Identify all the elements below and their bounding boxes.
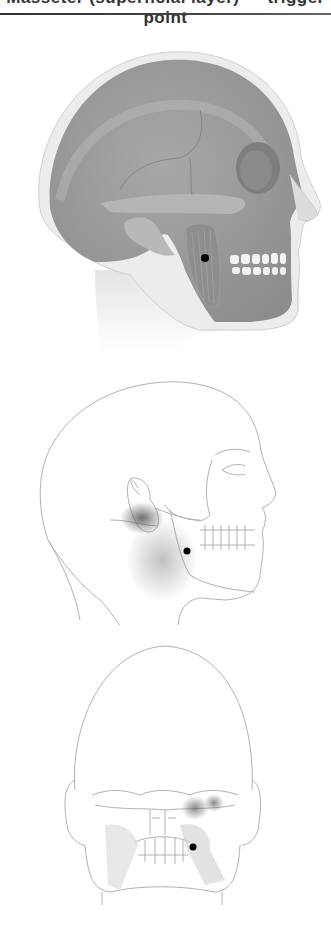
caption-fragment: Masseter (superficial layer) — trigger p…	[0, 0, 331, 8]
figure-lateral-anatomy	[0, 40, 331, 360]
referral-zone-secondary	[126, 518, 198, 602]
trigger-point-marker	[184, 548, 191, 555]
header-rule	[0, 13, 331, 15]
figure-lateral-referral	[0, 375, 331, 630]
posterior-referral-illustration	[0, 640, 331, 938]
trigger-point-marker	[190, 844, 197, 851]
figure-posterior-referral	[0, 640, 331, 938]
trigger-point-marker	[201, 254, 209, 262]
lateral-referral-illustration	[0, 375, 331, 630]
referral-zone-secondary	[204, 794, 224, 812]
lateral-anatomy-illustration	[0, 40, 331, 360]
